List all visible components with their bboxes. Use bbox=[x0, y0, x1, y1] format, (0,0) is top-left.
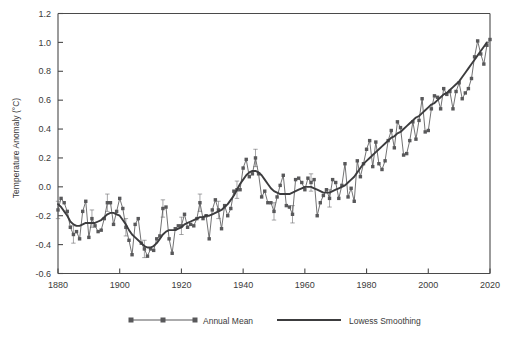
annual-mean-data-point bbox=[278, 184, 281, 187]
y-axis-title-label: Temperature Anomaly (°C) bbox=[11, 98, 21, 198]
legend-annual-marker-1 bbox=[129, 318, 134, 323]
y-tick-label: 0.0 bbox=[38, 182, 51, 192]
y-tick-label: 0.4 bbox=[38, 124, 51, 134]
annual-mean-data-point bbox=[380, 168, 383, 171]
annual-mean-data-point bbox=[346, 195, 349, 198]
legend-annual-mean-label: Annual Mean bbox=[203, 316, 253, 326]
annual-mean-data-point bbox=[365, 148, 368, 151]
x-tick-label: 2020 bbox=[480, 280, 500, 290]
annual-mean-data-point bbox=[399, 126, 402, 129]
annual-mean-data-point bbox=[130, 253, 133, 256]
annual-mean-data-point bbox=[226, 214, 229, 217]
annual-mean-data-point bbox=[248, 175, 251, 178]
annual-mean-data-point bbox=[62, 201, 65, 204]
y-tick-label: -0.4 bbox=[35, 240, 51, 250]
annual-mean-data-point bbox=[334, 181, 337, 184]
annual-mean-data-point bbox=[316, 214, 319, 217]
annual-mean-data-point bbox=[109, 201, 112, 204]
annual-mean-data-point bbox=[427, 129, 430, 132]
annual-mean-data-point bbox=[322, 194, 325, 197]
annual-mean-data-point bbox=[377, 162, 380, 165]
annual-mean-data-point bbox=[390, 129, 393, 132]
annual-mean-data-point bbox=[275, 195, 278, 198]
annual-mean-data-point bbox=[408, 139, 411, 142]
annual-mean-data-point bbox=[433, 94, 436, 97]
annual-mean-data-point bbox=[183, 213, 186, 216]
annual-mean-data-point bbox=[368, 139, 371, 142]
chart-canvas: Temperature Anomaly (°C) -0.6-0.4-0.20.0… bbox=[0, 0, 508, 337]
annual-mean-data-point bbox=[328, 197, 331, 200]
annual-mean-data-point bbox=[78, 237, 81, 240]
annual-mean-data-point bbox=[192, 224, 195, 227]
annual-mean-data-point bbox=[266, 201, 269, 204]
annual-mean-data-point bbox=[454, 90, 457, 93]
annual-mean-data-point bbox=[93, 224, 96, 227]
annual-mean-data-point bbox=[417, 119, 420, 122]
annual-mean-data-point bbox=[371, 165, 374, 168]
annual-mean-data-point bbox=[356, 159, 359, 162]
legend-lowess-smoothing-label: Lowess Smoothing bbox=[349, 316, 421, 326]
annual-mean-data-point bbox=[254, 156, 257, 159]
y-tick-label: 0.6 bbox=[38, 95, 51, 105]
annual-mean-data-point bbox=[402, 153, 405, 156]
annual-mean-data-point bbox=[214, 198, 217, 201]
annual-mean-data-point bbox=[59, 197, 62, 200]
annual-mean-data-point bbox=[442, 87, 445, 90]
annual-mean-data-point bbox=[325, 188, 328, 191]
annual-mean-data-point bbox=[198, 201, 201, 204]
annual-mean-data-point bbox=[115, 210, 118, 213]
annual-mean-data-point bbox=[133, 223, 136, 226]
y-tick-label: 1.2 bbox=[38, 9, 51, 19]
annual-mean-data-point bbox=[393, 146, 396, 149]
annual-mean-data-point bbox=[90, 217, 93, 220]
annual-mean-data-point bbox=[245, 158, 248, 161]
annual-mean-data-point bbox=[420, 97, 423, 100]
annual-mean-data-point bbox=[127, 239, 130, 242]
annual-mean-data-point bbox=[467, 87, 470, 90]
x-tick-label: 1880 bbox=[48, 280, 68, 290]
annual-mean-data-point bbox=[353, 200, 356, 203]
annual-mean-data-point bbox=[75, 230, 78, 233]
annual-mean-data-point bbox=[482, 62, 485, 65]
annual-mean-data-point bbox=[143, 247, 146, 250]
annual-mean-data-point bbox=[69, 226, 72, 229]
annual-mean-data-point bbox=[488, 38, 491, 41]
annual-mean-data-point bbox=[343, 162, 346, 165]
annual-mean-data-point bbox=[167, 237, 170, 240]
annual-mean-data-point bbox=[309, 181, 312, 184]
annual-mean-data-point bbox=[100, 228, 103, 231]
annual-mean-data-point bbox=[177, 224, 180, 227]
annual-mean-data-point bbox=[269, 201, 272, 204]
annual-mean-data-point bbox=[285, 204, 288, 207]
annual-mean-data-point bbox=[312, 178, 315, 181]
annual-mean-data-point bbox=[263, 189, 266, 192]
y-tick-label: 0.8 bbox=[38, 66, 51, 76]
annual-mean-data-point bbox=[464, 91, 467, 94]
temperature-anomaly-chart: Temperature Anomaly (°C) -0.6-0.4-0.20.0… bbox=[0, 0, 508, 337]
annual-mean-data-point bbox=[282, 174, 285, 177]
annual-mean-data-point bbox=[424, 130, 427, 133]
annual-mean-data-point bbox=[72, 233, 75, 236]
annual-mean-data-point bbox=[251, 172, 254, 175]
annual-mean-data-point bbox=[161, 207, 164, 210]
annual-mean-data-point bbox=[405, 152, 408, 155]
annual-mean-data-point bbox=[272, 210, 275, 213]
annual-mean-data-point bbox=[112, 223, 115, 226]
y-tick-label: 0.2 bbox=[38, 153, 51, 163]
x-tick-label: 1960 bbox=[295, 280, 315, 290]
annual-mean-data-point bbox=[87, 236, 90, 239]
annual-mean-data-point bbox=[374, 140, 377, 143]
annual-mean-data-point bbox=[220, 227, 223, 230]
annual-mean-data-point bbox=[349, 187, 352, 190]
annual-mean-data-point bbox=[303, 188, 306, 191]
x-tick-label: 1900 bbox=[110, 280, 130, 290]
annual-mean-data-point bbox=[208, 237, 211, 240]
annual-mean-data-point bbox=[288, 205, 291, 208]
annual-mean-data-point bbox=[121, 207, 124, 210]
legend-annual-marker-3 bbox=[193, 318, 198, 323]
annual-mean-data-point bbox=[291, 213, 294, 216]
annual-mean-data-point bbox=[118, 197, 121, 200]
annual-mean-data-point bbox=[396, 120, 399, 123]
annual-mean-data-point bbox=[331, 178, 334, 181]
annual-mean-data-point bbox=[414, 137, 417, 140]
